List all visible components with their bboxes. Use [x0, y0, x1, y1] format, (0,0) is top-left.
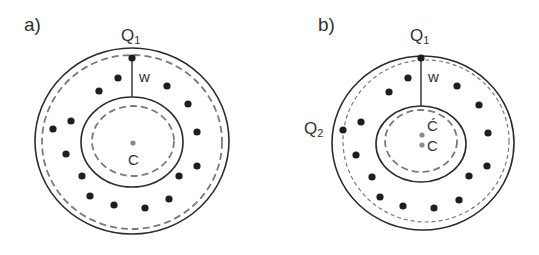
center-point [130, 140, 135, 145]
q1-label: Q1 [121, 26, 140, 46]
point-dot [193, 128, 200, 135]
point-dot [86, 192, 93, 199]
point-dot [404, 74, 411, 81]
point-dot [376, 193, 383, 200]
point-dot [110, 201, 117, 208]
point-dot [368, 173, 375, 180]
point-dot [193, 162, 200, 169]
panel-label: b) [318, 14, 335, 35]
point-dot [357, 118, 364, 125]
point-dot [62, 150, 69, 157]
point-dot [163, 82, 170, 89]
point-dot [184, 100, 191, 107]
point-dot [385, 88, 392, 95]
outer-dashed-circle [343, 60, 509, 222]
center-point [419, 132, 424, 137]
center-label: C [128, 151, 139, 168]
point-dot [67, 117, 74, 124]
q2-point [339, 126, 346, 133]
point-dot [465, 172, 472, 179]
center-point [419, 142, 424, 147]
point-dot [483, 162, 490, 169]
point-dot [95, 87, 102, 94]
inner-dashed-ellipse [385, 110, 457, 172]
width-label: w [427, 68, 439, 85]
center-label: C [427, 137, 438, 154]
q1-point [417, 54, 424, 61]
point-dot [49, 125, 56, 132]
width-label: w [138, 68, 150, 85]
point-dot [165, 195, 172, 202]
panel-label: a) [24, 14, 41, 35]
point-dot [175, 172, 182, 179]
q2-label: Q2 [304, 119, 323, 139]
point-dot [475, 101, 482, 108]
point-dot [352, 151, 359, 158]
point-dot [114, 74, 121, 81]
panel-b: b)wQ1Q2ĆC [304, 14, 514, 230]
point-dot [78, 172, 85, 179]
panel-a: a)wQ1C [24, 14, 229, 234]
q1-point [128, 54, 135, 61]
point-dot [399, 202, 406, 209]
q1-label: Q1 [410, 26, 429, 46]
diagram-canvas: a)wQ1Cb)wQ1Q2ĆC [0, 0, 539, 255]
center-label: Ć [427, 117, 438, 134]
point-dot [141, 204, 148, 211]
point-dot [430, 204, 437, 211]
point-dot [484, 129, 491, 136]
point-dot [455, 196, 462, 203]
point-dot [453, 82, 460, 89]
